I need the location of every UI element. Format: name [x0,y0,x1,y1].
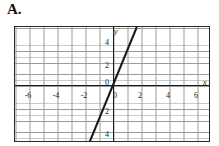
x-tick-label-neg2: -2 [81,91,88,100]
x-tick-label-neg4: -4 [53,91,60,100]
y-tick-label-4: 4 [101,38,109,47]
x-axis-label: x [203,79,207,87]
y-tick-label-neg4: 4 [101,130,109,139]
x-tick-label-6: 6 [194,91,198,100]
problem-label: A. [7,1,22,17]
plotted-line [15,27,210,142]
x-tick-label-2: 2 [138,91,142,100]
coordinate-graph: -6 -4 -2 0 2 4 6 4 2 0 2 4 y x [14,26,210,142]
x-tick-label-neg6: -6 [25,91,32,100]
y-axis-label: y [114,28,118,36]
x-tick-label-4: 4 [166,91,170,100]
y-tick-label-0: 0 [101,78,109,87]
y-tick-label-2: 2 [101,61,109,70]
x-tick-label-0: 0 [113,91,117,100]
y-tick-label-neg2: 2 [101,107,109,116]
